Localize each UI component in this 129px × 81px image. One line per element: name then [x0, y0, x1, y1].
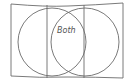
- intersection-label: Both: [57, 26, 76, 35]
- venn-diagram: Both: [0, 0, 129, 81]
- outer-frame: [11, 3, 123, 78]
- right-circle: [51, 8, 119, 76]
- left-circle: [18, 8, 86, 76]
